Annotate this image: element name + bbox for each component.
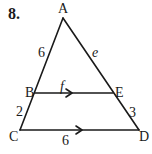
triangle-figure bbox=[0, 0, 152, 154]
segment-label-ed: 3 bbox=[129, 106, 136, 120]
side-ad bbox=[63, 18, 139, 130]
vertex-label-a: A bbox=[58, 2, 68, 16]
diagram-stage: 8. A B C D E 6 e f 2 3 6 bbox=[0, 0, 152, 154]
segment-label-bc: 2 bbox=[16, 105, 23, 119]
vertex-label-d: D bbox=[139, 130, 149, 144]
segment-label-ae: e bbox=[92, 46, 98, 60]
segment-label-ab: 6 bbox=[38, 46, 45, 60]
segment-label-cd: 6 bbox=[62, 134, 69, 148]
vertex-label-b: B bbox=[25, 86, 34, 100]
vertex-label-e: E bbox=[115, 86, 124, 100]
problem-number: 8. bbox=[8, 6, 20, 22]
side-ac bbox=[20, 18, 63, 130]
vertex-label-c: C bbox=[9, 130, 18, 144]
segment-label-be: f bbox=[60, 80, 64, 94]
